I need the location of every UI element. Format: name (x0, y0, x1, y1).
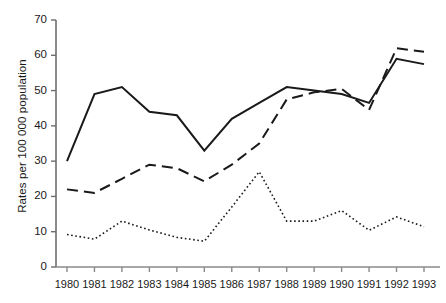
series-lines (67, 48, 424, 241)
series-dashed (67, 48, 424, 193)
y-tick-label: 60 (21, 49, 47, 61)
y-tick-label: 10 (21, 226, 47, 238)
plot-area (0, 0, 446, 303)
y-tick-label: 20 (21, 190, 47, 202)
y-tick-label: 40 (21, 120, 47, 132)
y-tick-label: 50 (21, 85, 47, 97)
y-tick-label: 0 (21, 261, 47, 273)
y-tick-label: 30 (21, 155, 47, 167)
series-dotted (67, 172, 424, 242)
y-tick-label: 70 (21, 14, 47, 26)
axis-lines (56, 20, 440, 267)
series-solid (67, 59, 424, 161)
line-chart: Rates per 100 000 population 01020304050… (0, 0, 446, 303)
x-tick-label: 1993 (407, 279, 441, 290)
